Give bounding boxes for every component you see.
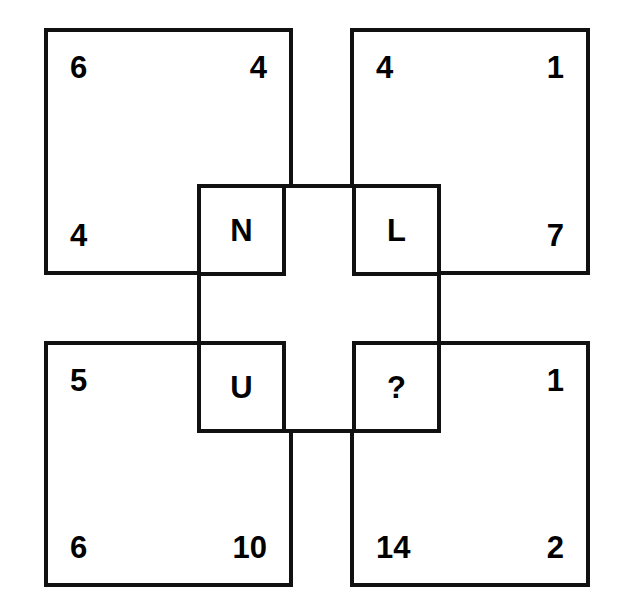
- center-cell-top-left: N: [197, 184, 286, 276]
- center-cell-bottom-right-label: ?: [387, 372, 406, 403]
- quadrant-bottom-right-value-top-right: 1: [547, 365, 564, 396]
- quadrant-bottom-left-value-top-left: 5: [70, 365, 87, 396]
- quadrant-bottom-left-value-bottom-left: 6: [70, 532, 87, 563]
- quadrant-bottom-right-value-bottom-left: 14: [376, 532, 410, 563]
- quadrant-top-right-value-bottom-right: 7: [547, 220, 564, 251]
- center-cell-top-right: L: [352, 184, 441, 276]
- quadrant-top-right-value-top-right: 1: [547, 52, 564, 83]
- quadrant-top-left-value-top-left: 6: [70, 52, 87, 83]
- quadrant-bottom-left-value-bottom-right: 10: [233, 532, 267, 563]
- center-cell-bottom-left: U: [197, 341, 286, 433]
- center-cell-top-left-label: N: [230, 215, 252, 246]
- center-cell-top-right-label: L: [387, 215, 406, 246]
- puzzle-canvas: 6 4 4 4 1 7 5 6 10 1 14 2 N L U ?: [0, 0, 619, 611]
- quadrant-top-left-value-top-right: 4: [250, 52, 267, 83]
- quadrant-top-right-value-top-left: 4: [376, 52, 393, 83]
- quadrant-top-left-value-bottom-left: 4: [70, 220, 87, 251]
- center-cell-bottom-left-label: U: [230, 372, 252, 403]
- quadrant-bottom-right-value-bottom-right: 2: [547, 532, 564, 563]
- center-cell-bottom-right[interactable]: ?: [352, 341, 441, 433]
